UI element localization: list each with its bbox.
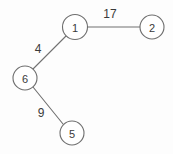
weighted-graph-figure: 17 4 9 1 2 6 5 bbox=[0, 0, 173, 154]
node-5: 5 bbox=[60, 121, 84, 145]
edge-weight-1-2: 17 bbox=[103, 7, 117, 21]
node-2: 2 bbox=[140, 15, 164, 39]
node-1: 1 bbox=[63, 15, 88, 40]
edge-weight-6-1: 4 bbox=[35, 42, 42, 56]
node-label-6: 6 bbox=[22, 73, 28, 85]
node-label-2: 2 bbox=[149, 22, 155, 34]
node-label-1: 1 bbox=[72, 22, 78, 34]
edges-group bbox=[33, 27, 140, 124]
edge-weight-6-5: 9 bbox=[38, 106, 45, 120]
node-6: 6 bbox=[13, 66, 37, 90]
node-label-5: 5 bbox=[69, 128, 75, 140]
nodes-group: 1 2 6 5 bbox=[13, 15, 164, 146]
graph-canvas: 17 4 9 1 2 6 5 bbox=[0, 0, 173, 154]
